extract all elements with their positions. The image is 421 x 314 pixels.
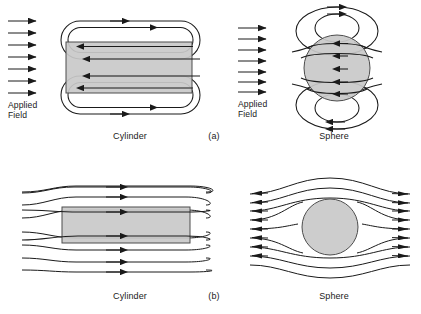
caption-row-b: (b) — [208, 291, 219, 302]
panel-b-sphere-right-arrowheads — [392, 194, 408, 256]
applied-field-line2: Field — [8, 110, 27, 120]
applied-field-line2: Field — [238, 109, 257, 119]
panel-a-sphere-applied-field-label: AppliedField — [238, 99, 267, 119]
panel-a-sphere-applied-arrows — [238, 28, 266, 92]
applied-field-line1: Applied — [8, 100, 37, 110]
caption-a-sphere: Sphere — [319, 131, 349, 142]
caption-row-a: (a) — [208, 131, 219, 142]
caption-a-cylinder: Cylinder — [113, 131, 147, 142]
figure-canvas — [0, 0, 421, 314]
caption-b-sphere: Sphere — [319, 291, 349, 302]
panel-b-sphere-left-arrowheads — [252, 193, 268, 256]
panel-a-cylinder-applied-field-label: AppliedField — [8, 100, 37, 120]
panel-b-sphere-body — [302, 199, 358, 255]
caption-b-cylinder: Cylinder — [113, 291, 147, 302]
panel-a-cylinder-body — [66, 42, 192, 93]
magnetic-field-figure: AppliedField AppliedField Cylinder (a) S… — [0, 0, 421, 314]
applied-field-line1: Applied — [238, 99, 267, 109]
panel-a-cylinder-applied-arrows — [8, 21, 36, 93]
